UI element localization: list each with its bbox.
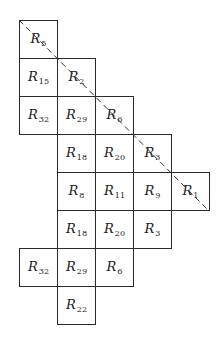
cell-label-letter: R — [145, 183, 155, 198]
grid-cell: R20 — [95, 134, 134, 173]
grid-cell: R18 — [57, 210, 96, 249]
cell-label-subscript: 18 — [77, 229, 87, 238]
grid-cell: R2 — [57, 58, 96, 97]
grid-cell: R1 — [171, 172, 210, 211]
cell-label-subscript: 11 — [115, 191, 125, 200]
cell-label-subscript: 6 — [117, 115, 122, 124]
cell-label: R3 — [145, 222, 161, 238]
grid-cell: R15 — [19, 58, 58, 97]
cell-label-letter: R — [69, 183, 79, 198]
grid-cell: R8 — [57, 172, 96, 211]
cell-label-subscript: 18 — [77, 153, 87, 162]
grid-cell: R6 — [95, 248, 134, 287]
cell-label: R32 — [28, 108, 49, 124]
cell-label: R18 — [66, 222, 87, 238]
cell-label-letter: R — [28, 259, 38, 274]
cell-label-subscript: 20 — [115, 229, 125, 238]
grid-cell: R32 — [19, 248, 58, 287]
cell-label-subscript: 9 — [155, 191, 160, 200]
cell-label-letter: R — [66, 259, 76, 274]
cell-label-subscript: 15 — [39, 77, 49, 86]
grid-cell: R18 — [57, 134, 96, 173]
cell-label-letter: R — [28, 107, 38, 122]
cell-label-subscript: 29 — [77, 115, 87, 124]
cell-label: R6 — [107, 108, 123, 124]
cell-label-letter: R — [66, 297, 76, 312]
cell-label-subscript: 8 — [79, 191, 84, 200]
grid-cell: R5 — [19, 20, 58, 59]
grid-cell: R29 — [57, 248, 96, 287]
cell-label-subscript: 3 — [155, 229, 160, 238]
grid-cell: R6 — [95, 96, 134, 135]
cell-label-letter: R — [145, 145, 155, 160]
cell-label-subscript: 32 — [39, 115, 49, 124]
cell-label-subscript: 2 — [79, 77, 84, 86]
grid-cell: R9 — [133, 172, 172, 211]
cell-label: R8 — [69, 184, 85, 200]
cell-label-subscript: 29 — [77, 267, 87, 276]
cell-label: R29 — [66, 108, 87, 124]
cell-label-subscript: 6 — [117, 267, 122, 276]
cell-label-letter: R — [66, 107, 76, 122]
cell-label: R15 — [28, 70, 49, 86]
cell-label-letter: R — [107, 259, 117, 274]
cell-label: R22 — [66, 298, 87, 314]
cell-label-letter: R — [104, 183, 114, 198]
grid-cell: R11 — [95, 172, 134, 211]
grid-cell: R20 — [95, 210, 134, 249]
cell-label-letter: R — [104, 145, 114, 160]
cell-label-subscript: 22 — [77, 305, 87, 314]
cell-label-letter: R — [107, 107, 117, 122]
cell-label-subscript: 5 — [41, 39, 46, 48]
cell-label: R5 — [31, 32, 47, 48]
cell-label-subscript: 20 — [115, 153, 125, 162]
cell-label-letter: R — [145, 221, 155, 236]
cell-label-subscript: 3 — [155, 153, 160, 162]
cell-label: R9 — [145, 184, 161, 200]
cell-label: R18 — [66, 146, 87, 162]
cell-label-letter: R — [183, 183, 193, 198]
cell-label-letter: R — [66, 221, 76, 236]
grid-cell: R3 — [133, 134, 172, 173]
cell-label: R20 — [104, 222, 125, 238]
cell-label-subscript: 1 — [193, 191, 198, 200]
cell-label: R11 — [104, 184, 125, 200]
grid-cell: R32 — [19, 96, 58, 135]
cell-label-letter: R — [104, 221, 114, 236]
grid-cell: R29 — [57, 96, 96, 135]
cell-label: R2 — [69, 70, 85, 86]
cell-label-letter: R — [28, 69, 38, 84]
cell-label: R3 — [145, 146, 161, 162]
grid-cell: R22 — [57, 286, 96, 325]
cell-label-letter: R — [69, 69, 79, 84]
grid-cell: R3 — [133, 210, 172, 249]
cell-label: R29 — [66, 260, 87, 276]
cell-label: R1 — [183, 184, 199, 200]
cell-label: R20 — [104, 146, 125, 162]
cell-label: R6 — [107, 260, 123, 276]
cell-label-letter: R — [66, 145, 76, 160]
cell-label-subscript: 32 — [39, 267, 49, 276]
cell-label: R32 — [28, 260, 49, 276]
cell-diagram: R5R15R2R32R29R6R18R20R3R8R11R9R1R18R20R3… — [0, 0, 219, 346]
cell-label-letter: R — [31, 31, 41, 46]
